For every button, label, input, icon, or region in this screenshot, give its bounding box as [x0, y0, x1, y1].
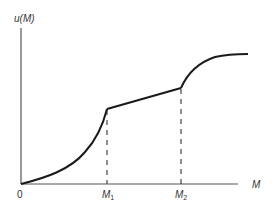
curve-concave-segment	[181, 54, 248, 88]
curve-convex-segment	[21, 109, 107, 184]
y-axis-label: u(M)	[14, 14, 35, 24]
m1-label-sub: 1	[110, 194, 114, 201]
m2-label-sub: 2	[183, 194, 187, 201]
curve-linear-segment	[107, 88, 181, 109]
utility-curve-diagram	[0, 0, 274, 209]
m2-label: M2	[175, 190, 187, 201]
m1-label: M1	[102, 190, 114, 201]
x-axis-label: M	[252, 180, 260, 190]
origin-label: 0	[17, 190, 23, 200]
